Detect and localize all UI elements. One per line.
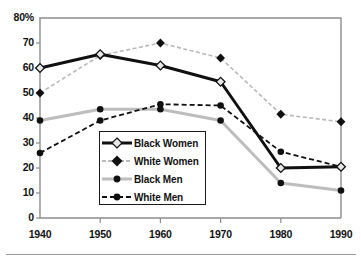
legend-label-black-men: Black Men xyxy=(134,174,183,185)
legend-swatch-white-men xyxy=(100,189,134,205)
line-chart: 80%706050403020100 194019501960197019801… xyxy=(0,0,361,263)
y-axis-tick-label: 20 xyxy=(0,161,34,173)
x-axis-tick-label: 1960 xyxy=(134,228,186,240)
y-axis-tick-label: 80% xyxy=(0,11,34,23)
x-axis-tick-label: 1980 xyxy=(255,228,307,240)
legend-label-black-women: Black Women xyxy=(134,138,198,149)
y-axis-tick-label: 40 xyxy=(0,111,34,123)
y-axis-tick-label: 60 xyxy=(0,61,34,73)
footer-divider xyxy=(6,254,356,255)
y-axis-tick-label: 10 xyxy=(0,186,34,198)
y-axis-tick-label: 70 xyxy=(0,36,34,48)
legend-swatch-white-women xyxy=(100,153,134,169)
legend-key-icon xyxy=(100,171,134,187)
legend-item[interactable]: White Men xyxy=(100,188,207,206)
chart-legend[interactable]: Black Women White Women Black Men xyxy=(99,131,206,205)
legend-key-icon xyxy=(100,153,134,169)
legend-label-white-women: White Women xyxy=(134,156,199,167)
legend-label-white-men: White Men xyxy=(134,192,183,203)
legend-swatch-black-men xyxy=(100,171,134,187)
x-axis-tick-label: 1950 xyxy=(74,228,126,240)
x-axis-tick-label: 1990 xyxy=(315,228,361,240)
y-axis-tick-label: 50 xyxy=(0,86,34,98)
legend-item[interactable]: Black Men xyxy=(100,170,207,188)
legend-item[interactable]: Black Women xyxy=(100,134,207,152)
x-axis-tick-label: 1940 xyxy=(14,228,66,240)
legend-key-icon xyxy=(100,189,134,205)
legend-key-icon xyxy=(100,135,134,151)
y-axis-tick-label: 0 xyxy=(0,211,34,223)
legend-item[interactable]: White Women xyxy=(100,152,207,170)
x-axis-ticks xyxy=(100,218,281,223)
y-axis-tick-label: 30 xyxy=(0,136,34,148)
legend-swatch-black-women xyxy=(100,135,134,151)
x-axis-tick-label: 1970 xyxy=(195,228,247,240)
